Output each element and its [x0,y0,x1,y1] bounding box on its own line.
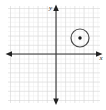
x-axis-label: x [98,54,103,62]
graph-canvas: y x [0,0,106,110]
graph-screenshot: y x [0,0,106,110]
coordinate-plane-figure: y x [0,0,106,110]
circle-center-point [78,36,81,39]
